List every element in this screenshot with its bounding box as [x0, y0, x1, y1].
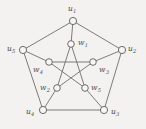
vertex-label-subscript-w2: 2 — [47, 87, 50, 93]
vertex-label-base-w5: w — [91, 83, 98, 92]
graph-canvas — [0, 0, 146, 129]
graph-edge-w2-w3 — [57, 62, 93, 88]
vertex-label-subscript-u5: 5 — [12, 48, 15, 54]
vertex-label-w4: w4 — [33, 66, 43, 74]
vertex-label-w2: w2 — [40, 84, 50, 92]
graph-vertex-u3 — [100, 106, 107, 113]
graph-vertex-w2 — [54, 85, 61, 92]
graph-edge-u5-u1 — [23, 21, 73, 50]
vertex-label-subscript-w3: 3 — [106, 69, 109, 75]
graph-vertex-u1 — [69, 17, 76, 24]
vertex-label-subscript-w5: 5 — [98, 87, 101, 93]
graph-vertex-w1 — [68, 41, 75, 48]
graph-vertex-w4 — [46, 59, 53, 66]
vertex-label-u1: u1 — [68, 5, 76, 13]
vertex-label-subscript-u1: 1 — [73, 8, 76, 14]
vertex-label-w1: w1 — [78, 39, 88, 47]
vertex-label-u4: u4 — [26, 108, 34, 116]
vertex-label-w3: w3 — [99, 66, 109, 74]
vertex-label-u2: u2 — [128, 45, 136, 53]
petersen-graph-figure: u1u2u3u4u5w1w2w3w4w5 — [0, 0, 146, 129]
vertex-label-base-w4: w — [33, 65, 40, 74]
graph-edge-w5-w1 — [71, 44, 85, 88]
vertex-label-base-w1: w — [78, 38, 85, 47]
graph-vertex-w3 — [90, 59, 97, 66]
graph-vertex-u4 — [39, 106, 46, 113]
vertex-label-base-w3: w — [99, 65, 106, 74]
vertex-label-subscript-w4: 4 — [40, 69, 43, 75]
graph-edge-u5-w4 — [23, 50, 49, 62]
graph-edge-u4-u5 — [23, 50, 43, 110]
graph-edge-u2-u3 — [104, 50, 122, 110]
vertex-label-subscript-w1: 1 — [85, 42, 88, 48]
graph-edge-w1-w2 — [57, 44, 71, 88]
vertex-label-subscript-u3: 3 — [116, 111, 119, 117]
vertex-label-u3: u3 — [111, 108, 119, 116]
graph-vertex-u2 — [118, 46, 125, 53]
graph-edge-w4-w5 — [49, 62, 85, 88]
vertex-label-base-w2: w — [40, 83, 47, 92]
graph-vertex-w5 — [82, 85, 89, 92]
graph-vertex-u5 — [19, 46, 26, 53]
vertex-label-subscript-u2: 2 — [133, 48, 136, 54]
vertex-label-subscript-u4: 4 — [31, 111, 34, 117]
vertex-label-w5: w5 — [91, 84, 101, 92]
graph-edge-u2-w3 — [93, 50, 122, 62]
vertex-label-u5: u5 — [7, 45, 15, 53]
